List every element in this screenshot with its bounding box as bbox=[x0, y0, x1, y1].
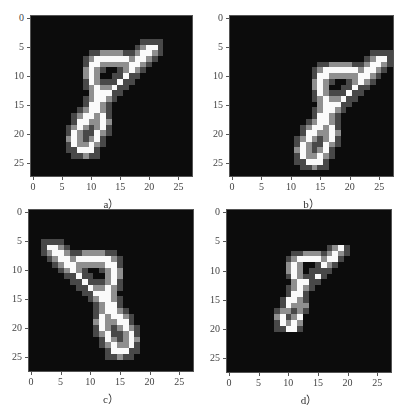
x-tick-mark bbox=[149, 177, 150, 180]
y-tick-mark bbox=[27, 134, 30, 135]
y-tick-label: 10 bbox=[204, 266, 220, 276]
y-tick-mark bbox=[27, 105, 30, 106]
x-tick-mark bbox=[91, 177, 92, 180]
x-tick-mark bbox=[232, 177, 233, 180]
y-tick-mark bbox=[25, 357, 28, 358]
y-tick-mark bbox=[25, 212, 28, 213]
y-tick-mark bbox=[27, 47, 30, 48]
image-axes bbox=[30, 15, 193, 177]
x-tick-mark bbox=[288, 373, 289, 376]
y-tick-label: 0 bbox=[6, 207, 22, 217]
y-tick-label: 25 bbox=[207, 158, 223, 168]
y-tick-label: 5 bbox=[6, 236, 22, 246]
x-tick-label: 5 bbox=[54, 182, 70, 192]
y-tick-label: 0 bbox=[204, 207, 220, 217]
x-tick-label: 20 bbox=[342, 182, 358, 192]
y-tick-mark bbox=[226, 18, 229, 19]
y-tick-label: 25 bbox=[6, 352, 22, 362]
y-tick-label: 10 bbox=[6, 265, 22, 275]
y-tick-mark bbox=[223, 358, 226, 359]
y-tick-label: 5 bbox=[207, 42, 223, 52]
x-tick-mark bbox=[377, 373, 378, 376]
x-tick-label: 5 bbox=[253, 182, 269, 192]
y-tick-label: 0 bbox=[207, 13, 223, 23]
image-axes bbox=[226, 209, 392, 373]
y-tick-mark bbox=[223, 271, 226, 272]
x-tick-mark bbox=[350, 177, 351, 180]
x-tick-mark bbox=[261, 177, 262, 180]
x-tick-mark bbox=[62, 177, 63, 180]
image-axes bbox=[28, 209, 194, 372]
x-tick-label: 15 bbox=[112, 377, 128, 387]
y-tick-label: 20 bbox=[6, 323, 22, 333]
y-tick-mark bbox=[223, 300, 226, 301]
y-tick-label: 0 bbox=[8, 13, 24, 23]
x-tick-mark bbox=[31, 372, 32, 375]
y-tick-mark bbox=[226, 76, 229, 77]
y-tick-label: 15 bbox=[6, 294, 22, 304]
x-tick-mark bbox=[320, 177, 321, 180]
x-tick-mark bbox=[120, 177, 121, 180]
x-tick-mark bbox=[348, 373, 349, 376]
x-tick-mark bbox=[229, 373, 230, 376]
x-tick-mark bbox=[90, 372, 91, 375]
digit-image bbox=[227, 210, 391, 372]
y-tick-label: 15 bbox=[207, 100, 223, 110]
x-tick-label: 5 bbox=[53, 377, 69, 387]
x-tick-mark bbox=[178, 177, 179, 180]
y-tick-mark bbox=[223, 212, 226, 213]
x-tick-label: 20 bbox=[141, 182, 157, 192]
y-tick-label: 20 bbox=[207, 129, 223, 139]
x-tick-label: 0 bbox=[25, 182, 41, 192]
x-tick-label: 25 bbox=[171, 377, 187, 387]
x-tick-mark bbox=[179, 372, 180, 375]
y-tick-label: 5 bbox=[204, 236, 220, 246]
y-tick-label: 10 bbox=[207, 71, 223, 81]
y-tick-mark bbox=[25, 241, 28, 242]
y-tick-mark bbox=[27, 163, 30, 164]
y-tick-label: 15 bbox=[204, 295, 220, 305]
x-tick-mark bbox=[318, 373, 319, 376]
x-tick-mark bbox=[379, 177, 380, 180]
x-tick-label: 15 bbox=[310, 378, 326, 388]
y-tick-mark bbox=[226, 105, 229, 106]
y-tick-label: 25 bbox=[204, 353, 220, 363]
digit-image bbox=[230, 16, 393, 176]
x-tick-label: 20 bbox=[142, 377, 158, 387]
digit-image bbox=[29, 210, 193, 371]
subplot-caption: c） bbox=[91, 390, 131, 406]
y-tick-label: 25 bbox=[8, 158, 24, 168]
y-tick-label: 5 bbox=[8, 42, 24, 52]
y-tick-mark bbox=[25, 299, 28, 300]
x-tick-label: 0 bbox=[23, 377, 39, 387]
x-tick-mark bbox=[259, 373, 260, 376]
x-tick-label: 10 bbox=[83, 182, 99, 192]
y-tick-mark bbox=[223, 329, 226, 330]
x-tick-label: 20 bbox=[340, 378, 356, 388]
x-tick-label: 10 bbox=[280, 378, 296, 388]
x-tick-label: 10 bbox=[82, 377, 98, 387]
x-tick-mark bbox=[61, 372, 62, 375]
x-tick-label: 0 bbox=[221, 378, 237, 388]
x-tick-mark bbox=[33, 177, 34, 180]
y-tick-mark bbox=[226, 134, 229, 135]
y-tick-mark bbox=[25, 328, 28, 329]
x-tick-mark bbox=[150, 372, 151, 375]
y-tick-label: 20 bbox=[8, 129, 24, 139]
y-tick-label: 20 bbox=[204, 324, 220, 334]
x-tick-label: 25 bbox=[369, 378, 385, 388]
x-tick-label: 5 bbox=[251, 378, 267, 388]
y-tick-mark bbox=[25, 270, 28, 271]
x-tick-label: 25 bbox=[170, 182, 186, 192]
y-tick-mark bbox=[27, 18, 30, 19]
subplot-caption: d） bbox=[289, 391, 329, 407]
y-tick-mark bbox=[226, 47, 229, 48]
digit-image bbox=[31, 16, 192, 176]
x-tick-mark bbox=[120, 372, 121, 375]
y-tick-label: 10 bbox=[8, 71, 24, 81]
x-tick-mark bbox=[291, 177, 292, 180]
y-tick-mark bbox=[226, 163, 229, 164]
x-tick-label: 0 bbox=[224, 182, 240, 192]
image-axes bbox=[229, 15, 394, 177]
x-tick-label: 25 bbox=[371, 182, 387, 192]
